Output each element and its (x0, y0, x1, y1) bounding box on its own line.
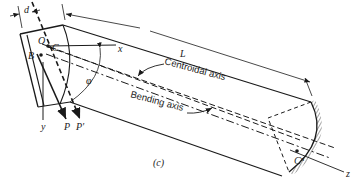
label-c: C (52, 42, 59, 53)
load-p-arrow (37, 54, 66, 119)
centroidal-axis-label: Centroidal axis (163, 55, 227, 82)
label-p-prime: P′ (75, 121, 85, 132)
centroidal-leader (138, 64, 164, 76)
l-dimension (62, 4, 312, 96)
point-b (39, 53, 43, 57)
label-l: L (179, 48, 186, 59)
label-phi: φ (86, 75, 92, 86)
label-p: P (63, 121, 70, 132)
point-cn (295, 149, 299, 153)
label-y: y (40, 121, 46, 132)
figure-caption: (c) (153, 157, 165, 169)
label-cn: Cⁿ (294, 155, 305, 166)
cantilever-beam-diagram: d O C x B L φ y P P′ Cⁿ z Centroidal axi… (0, 0, 355, 180)
load-arrows (32, 2, 80, 119)
point-c (46, 44, 50, 48)
beam-bottom-edge (70, 102, 282, 176)
label-z: z (345, 168, 350, 179)
label-x: x (117, 43, 123, 54)
label-b: B (28, 50, 34, 61)
label-o: O (38, 35, 45, 46)
label-d: d (24, 4, 30, 15)
